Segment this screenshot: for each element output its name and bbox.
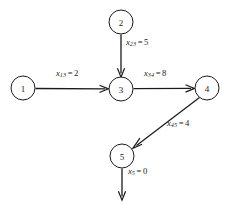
edge-3-to-4 xyxy=(134,85,195,92)
edge-label-x45: x45=4 xyxy=(167,119,189,129)
edge-label-x13-value: 2 xyxy=(74,68,78,78)
edge-label-x13: x13=2 xyxy=(56,69,78,79)
node-1-label: 1 xyxy=(21,84,26,94)
edge-1-to-3 xyxy=(36,85,109,92)
edge-label-x5-equals: = xyxy=(135,166,143,176)
node-5[interactable]: 5 xyxy=(110,144,134,168)
edge-label-x34-equals: = xyxy=(154,68,162,78)
node-4-label: 4 xyxy=(205,84,210,94)
node-4[interactable]: 4 xyxy=(195,76,219,100)
edge-label-x5-value: 0 xyxy=(143,166,147,176)
node-1[interactable]: 1 xyxy=(11,76,35,100)
node-5-label: 5 xyxy=(120,152,125,162)
node-2[interactable]: 2 xyxy=(109,10,133,34)
edge-label-x34: x34=8 xyxy=(144,69,166,79)
edge-label-x45-equals: = xyxy=(177,118,185,128)
edge-label-x23: x23=5 xyxy=(126,38,148,48)
node-3-label: 3 xyxy=(119,85,124,95)
node-3[interactable]: 3 xyxy=(109,77,133,101)
edge-label-x13-equals: = xyxy=(66,68,74,78)
edge-label-x5: x5=0 xyxy=(128,167,147,177)
node-2-label: 2 xyxy=(119,18,124,28)
edge-label-x34-value: 8 xyxy=(162,68,166,78)
edge-label-x45-value: 4 xyxy=(185,118,189,128)
edge-label-x23-equals: = xyxy=(136,37,144,47)
edge-5-to-sink xyxy=(118,169,125,201)
edge-2-to-3 xyxy=(117,35,124,78)
edge-4-to-5-arrowhead xyxy=(133,138,142,148)
network-graph-canvas: 1 2 3 4 5 xyxy=(0,0,232,206)
edge-label-x23-value: 5 xyxy=(144,37,148,47)
flow-network-diagram: 1 2 3 4 5 x13=2 x23=5 x34=8 x45=4 x5=0 xyxy=(0,0,232,206)
